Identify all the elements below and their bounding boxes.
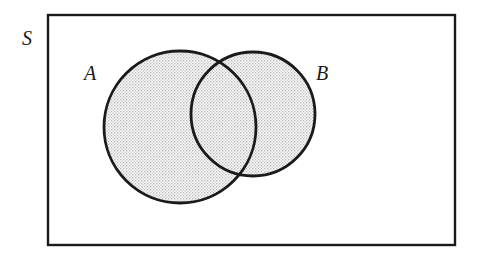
universal-set-label: S xyxy=(22,27,32,49)
venn-diagram-figure: S A B xyxy=(0,0,477,263)
set-b-label: B xyxy=(316,62,328,84)
set-a-label: A xyxy=(82,62,97,84)
venn-diagram-canvas: S A B xyxy=(0,0,477,263)
